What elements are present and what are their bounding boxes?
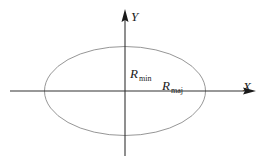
y-axis-label: Y [131, 10, 138, 23]
x-axis-label-text: X [243, 79, 251, 94]
r-min-subscript: min [139, 74, 151, 83]
x-axis-label: X [243, 80, 251, 93]
r-maj-label: Rmaj [162, 79, 183, 92]
y-axis-label-text: Y [131, 9, 138, 24]
diagram-canvas [0, 0, 263, 163]
r-maj-symbol: R [162, 78, 170, 93]
r-min-label: Rmin [130, 67, 151, 80]
r-maj-subscript: maj [171, 86, 183, 95]
r-min-symbol: R [130, 66, 138, 81]
